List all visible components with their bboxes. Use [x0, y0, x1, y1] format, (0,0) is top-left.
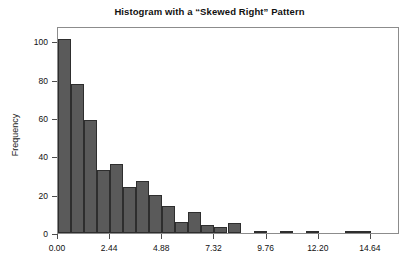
- histogram-bar: [214, 227, 227, 233]
- y-axis-tick: [52, 196, 57, 197]
- x-axis-tick: [213, 234, 214, 239]
- histogram-bar: [97, 170, 110, 233]
- y-axis-label: Frequency: [8, 92, 22, 178]
- x-axis-tick: [370, 234, 371, 239]
- histogram-bar: [228, 223, 241, 233]
- histogram-bar: [71, 84, 84, 234]
- y-axis-tick-label: 0: [0, 229, 48, 239]
- histogram-bar: [123, 187, 136, 233]
- x-axis-tick: [266, 234, 267, 239]
- histogram-bar: [280, 231, 293, 233]
- bars-layer: [58, 28, 398, 233]
- histogram-bar: [175, 222, 188, 234]
- y-axis-tick: [52, 157, 57, 158]
- x-axis-tick-label: 14.64: [359, 243, 380, 253]
- x-axis-tick: [318, 234, 319, 239]
- x-axis-tick: [109, 234, 110, 239]
- histogram-bar: [345, 231, 358, 233]
- x-axis-tick-label: 2.44: [101, 243, 118, 253]
- x-axis-tick-label: 12.20: [307, 243, 328, 253]
- x-axis-tick: [57, 234, 58, 239]
- y-axis-tick-label: 20: [0, 191, 48, 201]
- y-axis-tick: [52, 81, 57, 82]
- x-axis-tick-label: 4.88: [153, 243, 170, 253]
- x-axis-tick-label: 0.00: [49, 243, 66, 253]
- y-axis-tick-label: 80: [0, 76, 48, 86]
- x-axis-tick: [161, 234, 162, 239]
- x-axis-tick-label: 7.32: [205, 243, 222, 253]
- y-axis-tick-label: 60: [0, 114, 48, 124]
- chart-title: Histogram with a “Skewed Right” Pattern: [0, 6, 419, 17]
- histogram-bar: [358, 231, 371, 233]
- y-axis-tick-label: 40: [0, 152, 48, 162]
- histogram-bar: [254, 231, 267, 233]
- histogram-bar: [149, 195, 162, 233]
- y-axis-tick-label: 100: [0, 37, 48, 47]
- histogram-bar: [188, 212, 201, 233]
- plot-area: [57, 27, 399, 234]
- histogram-figure: Histogram with a “Skewed Right” Pattern …: [0, 0, 419, 267]
- histogram-bar: [306, 231, 319, 233]
- histogram-bar: [58, 39, 71, 233]
- y-axis-tick: [52, 42, 57, 43]
- x-axis-tick-label: 9.76: [257, 243, 274, 253]
- histogram-bar: [162, 206, 175, 233]
- histogram-bar: [110, 164, 123, 233]
- histogram-bar: [201, 225, 214, 233]
- histogram-bar: [84, 120, 97, 233]
- histogram-bar: [136, 181, 149, 233]
- y-axis-tick: [52, 119, 57, 120]
